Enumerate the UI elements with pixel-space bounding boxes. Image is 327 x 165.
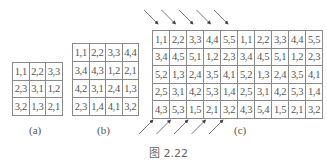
arrow-down-right [197,10,211,24]
arrow-up-right [139,120,153,134]
arrow-up-right [192,120,206,134]
arrow-down-right [214,10,228,24]
bottom-arrows [139,120,223,134]
diagonal-arrows [0,0,327,165]
arrow-down-right [144,10,158,24]
arrow-up-right [157,120,171,134]
arrow-up-right [209,120,223,134]
arrow-up-right [174,120,188,134]
top-arrows [144,10,228,24]
arrow-down-right [179,10,193,24]
arrow-down-right [162,10,176,24]
